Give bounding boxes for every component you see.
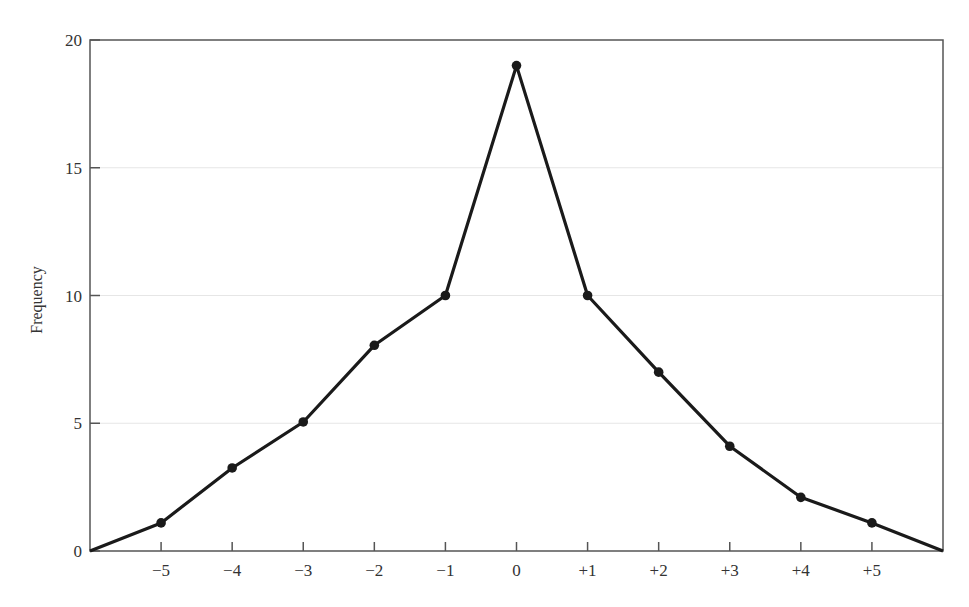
- y-tick-label: 10: [65, 287, 82, 306]
- frequency-polygon-chart: 05101520 −5−4−3−2−10+1+2+3+4+5 Frequency: [0, 0, 969, 607]
- data-point-marker: [512, 61, 522, 71]
- data-point-marker: [654, 367, 664, 377]
- data-point-marker: [298, 417, 308, 427]
- data-line: [90, 66, 943, 551]
- x-tick-label: 0: [512, 561, 521, 580]
- data-point-marker: [796, 493, 806, 503]
- x-axis-ticks: −5−4−3−2−10+1+2+3+4+5: [152, 542, 881, 580]
- x-tick-label: −3: [294, 561, 312, 580]
- y-axis-ticks: 05101520: [65, 31, 100, 561]
- y-axis-title: Frequency: [28, 266, 46, 334]
- y-tick-label: 20: [65, 31, 82, 50]
- x-tick-label: −4: [223, 561, 242, 580]
- y-tick-label: 0: [74, 542, 83, 561]
- y-tick-label: 15: [65, 159, 82, 178]
- x-tick-label: −5: [152, 561, 170, 580]
- x-tick-label: +4: [792, 561, 811, 580]
- data-point-marker: [867, 518, 877, 528]
- data-point-marker: [227, 463, 237, 473]
- x-tick-label: +2: [650, 561, 668, 580]
- x-tick-label: +1: [579, 561, 597, 580]
- data-point-marker: [583, 291, 593, 301]
- data-point-marker: [370, 341, 380, 351]
- x-tick-label: −1: [436, 561, 454, 580]
- data-point-marker: [725, 441, 735, 451]
- data-point-marker: [156, 518, 166, 528]
- x-tick-label: −2: [365, 561, 383, 580]
- data-markers: [156, 61, 876, 528]
- x-tick-label: +5: [863, 561, 881, 580]
- horizontal-gridlines: [90, 168, 943, 424]
- x-tick-label: +3: [721, 561, 739, 580]
- y-tick-label: 5: [74, 414, 83, 433]
- data-point-marker: [441, 291, 451, 301]
